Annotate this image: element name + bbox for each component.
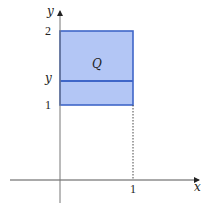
- y-tick-2-label: 2: [45, 24, 51, 38]
- x-axis-label: x: [194, 180, 201, 194]
- region-diagram: y x 2 1 1 y Q: [0, 0, 209, 204]
- y-axis-label: y: [46, 4, 54, 18]
- cross-section-label: y: [44, 71, 52, 85]
- x-tick-1-label: 1: [130, 182, 136, 196]
- y-tick-1-label: 1: [45, 98, 51, 112]
- region-label: Q: [92, 57, 102, 71]
